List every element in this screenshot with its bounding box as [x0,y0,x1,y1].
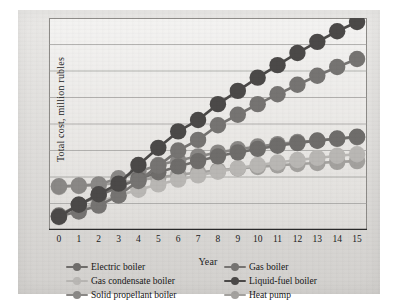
data-point-marker [71,177,87,193]
x-tick-label: 4 [136,234,141,244]
x-tick-label: 10 [253,234,263,244]
data-point-marker [289,45,305,61]
legend-marker-icon [224,277,246,286]
data-point-marker [230,83,246,99]
data-point-marker [210,164,226,180]
data-point-marker [190,153,206,169]
legend-marker-icon [224,291,246,300]
data-point-marker [269,57,285,73]
data-point-marker [130,157,146,173]
data-point-marker [249,157,265,173]
data-point-marker [269,154,285,170]
y-axis-title: Total cost, million rubles [55,35,66,185]
data-point-marker [329,23,345,39]
data-point-marker [289,135,305,151]
x-tick-label: 14 [332,234,342,244]
data-point-marker [210,148,226,164]
data-point-marker [190,132,206,148]
legend-label: Gas boiler [249,262,288,272]
data-point-marker [150,140,166,156]
plot-wrapper: Total cost, million rubles Year 01234567… [49,18,367,230]
legend-item-gas-condensate-boiler[interactable]: Gas condensate boiler [66,276,224,286]
chart-canvas [49,18,367,230]
data-point-marker [71,197,87,213]
legend-marker-icon [66,277,88,286]
data-point-marker [349,129,365,145]
data-point-marker [230,144,246,160]
x-tick-label: 12 [293,234,303,244]
data-point-marker [269,86,285,102]
data-point-marker [349,146,365,162]
legend-item-solid-propellant-boiler[interactable]: Solid propellant boiler [66,290,224,300]
data-point-marker [309,132,325,148]
x-tick-label: 5 [156,234,161,244]
legend-marker-icon [66,291,88,300]
data-point-marker [289,152,305,168]
chart-legend: Electric boilerGas boilerGas condensate … [66,260,366,302]
data-point-marker [110,175,126,191]
x-tick-label: 2 [96,234,101,244]
x-tick-label: 0 [57,234,62,244]
data-point-marker [329,59,345,75]
legend-label: Liquid-fuel boiler [249,276,317,286]
legend-label: Solid propellant boiler [91,290,177,300]
x-tick-label: 11 [273,234,282,244]
legend-item-heat-pump[interactable]: Heat pump [224,290,366,300]
data-point-marker [349,18,365,30]
data-point-marker [230,107,246,123]
data-point-marker [130,173,146,189]
data-point-marker [309,68,325,84]
legend-label: Electric boiler [91,262,145,272]
data-point-marker [170,123,186,139]
data-point-marker [150,158,166,174]
data-point-marker [249,69,265,85]
x-tick-label: 9 [235,234,240,244]
data-point-marker [170,158,186,174]
data-point-marker [51,209,67,225]
legend-label: Gas condensate boiler [91,276,175,286]
data-point-marker [190,167,206,183]
x-tick-label: 1 [76,234,81,244]
data-point-marker [90,186,106,202]
figure-panel: Total cost, million rubles Year 01234567… [18,10,380,294]
data-point-marker [210,96,226,112]
data-point-marker [170,142,186,158]
legend-item-gas-boiler[interactable]: Gas boiler [224,262,366,272]
data-point-marker [249,96,265,112]
data-point-marker [269,138,285,154]
legend-item-liquid-fuel-boiler[interactable]: Liquid-fuel boiler [224,276,366,286]
legend-item-electric-boiler[interactable]: Electric boiler [66,262,224,272]
legend-marker-icon [224,263,246,272]
x-tick-label: 8 [216,234,221,244]
legend-label: Heat pump [249,290,291,300]
data-point-marker [289,77,305,93]
data-point-marker [190,112,206,128]
data-point-marker [329,148,345,164]
data-point-marker [349,51,365,67]
chart-figure: Total cost, million rubles Year 01234567… [0,0,398,304]
x-tick-label: 7 [196,234,201,244]
data-point-marker [249,141,265,157]
data-point-marker [309,150,325,166]
x-tick-label: 13 [313,234,323,244]
series-liquid-fuel-boiler [51,18,366,225]
legend-marker-icon [66,263,88,272]
data-point-marker [309,34,325,50]
data-point-marker [230,160,246,176]
data-point-marker [210,117,226,133]
x-tick-label: 15 [352,234,362,244]
data-point-marker [329,130,345,146]
x-tick-label: 3 [116,234,121,244]
x-tick-label: 6 [176,234,181,244]
